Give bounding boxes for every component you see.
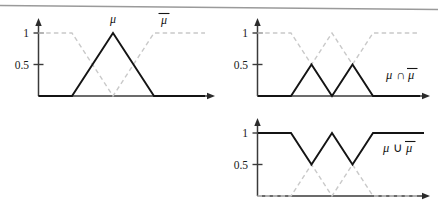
intersection-x-axis-arrowhead bbox=[422, 93, 430, 99]
intersection-y-axis-arrowhead bbox=[254, 18, 260, 26]
top-divider-rule bbox=[0, 6, 438, 10]
panel-membership-and-complement: 1 0.5 μ μ bbox=[15, 12, 215, 99]
left-ytick-label-05: 0.5 bbox=[15, 59, 30, 71]
intersection-label-mu: μ bbox=[385, 68, 392, 82]
union-y-axis-arrowhead bbox=[254, 118, 260, 126]
panel-union: 1 0.5 μ ∪ μ bbox=[234, 118, 430, 199]
intersection-label-mu-bar: μ bbox=[407, 68, 414, 82]
left-complement-curve bbox=[39, 33, 206, 96]
intersection-ytick-label-1: 1 bbox=[242, 27, 248, 39]
union-label-mu-bar: μ bbox=[405, 141, 412, 155]
left-ytick-label-1: 1 bbox=[23, 27, 29, 39]
panel-intersection: 1 0.5 μ ∩ μ bbox=[234, 18, 430, 99]
left-membership-curve bbox=[39, 33, 206, 96]
union-label-mu: μ bbox=[382, 141, 389, 155]
left-label-mu-bar: μ bbox=[159, 13, 170, 27]
union-x-axis-arrowhead bbox=[422, 193, 430, 199]
intersection-ytick-label-05: 0.5 bbox=[234, 59, 249, 71]
intersection-label-operator: ∩ bbox=[396, 68, 405, 82]
intersection-operation-label: μ ∩ μ bbox=[385, 68, 418, 82]
left-label-mu-bar-text: μ bbox=[160, 13, 167, 27]
figure-canvas: 1 0.5 μ μ 1 0.5 bbox=[0, 0, 438, 214]
union-ytick-label-1: 1 bbox=[242, 127, 248, 139]
union-operation-label: μ ∪ μ bbox=[382, 141, 416, 155]
fuzzy-set-operations-figure: 1 0.5 μ μ 1 0.5 bbox=[0, 0, 438, 214]
left-y-axis-arrowhead bbox=[35, 18, 41, 26]
left-label-mu: μ bbox=[109, 12, 116, 26]
union-ytick-label-05: 0.5 bbox=[234, 159, 249, 171]
left-x-axis-arrowhead bbox=[207, 93, 215, 99]
union-label-operator: ∪ bbox=[393, 141, 403, 155]
